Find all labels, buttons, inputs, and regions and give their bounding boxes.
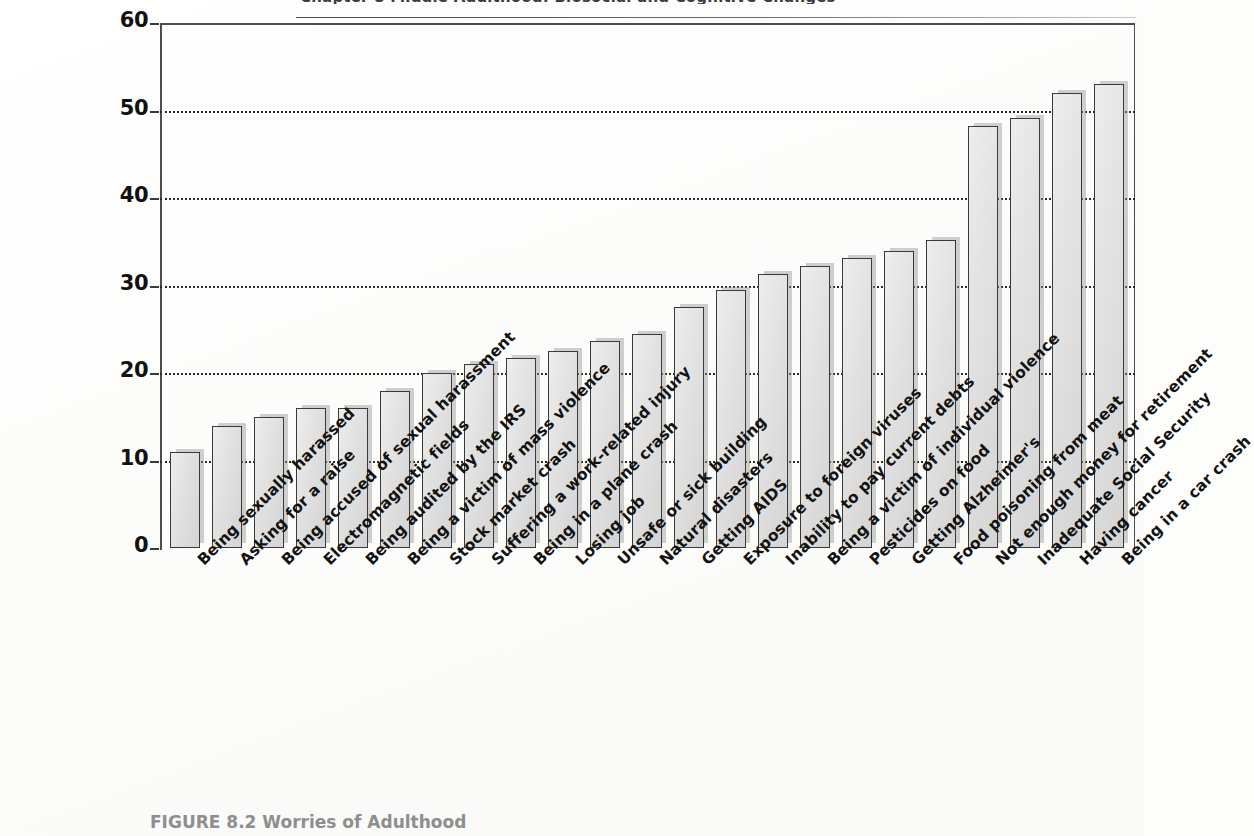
y-tick-mark-20 [150,373,159,375]
y-tick-label-20: 20 [104,358,148,382]
plot-area [160,23,1135,548]
y-tick-mark-0 [150,548,159,550]
header-rule [296,17,1136,18]
figure-caption: FIGURE 8.2 Worries of Adulthood [150,812,466,836]
y-tick-label-60: 60 [104,8,148,32]
y-tick-label-0: 0 [104,533,148,557]
y-tick-label-30: 30 [104,271,148,295]
y-tick-mark-60 [150,23,159,25]
running-head: Chapter 8 Middle Adulthood: Biosocial an… [300,0,1100,4]
gridline-50 [160,111,1135,113]
y-tick-label-50: 50 [104,96,148,120]
y-tick-mark-10 [150,461,159,463]
y-tick-mark-40 [150,198,159,200]
bar [170,452,200,548]
y-tick-mark-30 [150,286,159,288]
figure-number: FIGURE 8.2 [150,812,256,832]
y-tick-label-40: 40 [104,183,148,207]
y-tick-mark-50 [150,111,159,113]
plot-frame-top [160,23,1135,25]
y-tick-label-10: 10 [104,446,148,470]
figure-title: Worries of Adulthood [262,812,466,832]
